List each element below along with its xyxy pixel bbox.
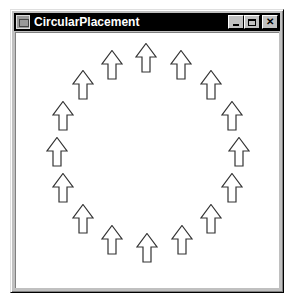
up-arrow-icon bbox=[101, 225, 123, 255]
up-arrow-icon bbox=[72, 204, 94, 234]
up-arrow-icon bbox=[200, 70, 222, 100]
up-arrow-icon bbox=[221, 173, 243, 203]
up-arrow-icon bbox=[135, 43, 157, 73]
up-arrow-icon bbox=[52, 173, 74, 203]
close-icon: ✕ bbox=[266, 17, 274, 27]
maximize-icon bbox=[248, 19, 256, 26]
app-icon[interactable] bbox=[16, 15, 30, 29]
maximize-button[interactable] bbox=[244, 15, 260, 29]
up-arrow-icon bbox=[221, 101, 243, 131]
up-arrow-icon bbox=[136, 233, 158, 263]
window-title: CircularPlacement bbox=[34, 15, 139, 29]
up-arrow-icon bbox=[170, 50, 192, 80]
window-controls: ✕ bbox=[228, 15, 278, 29]
minimize-button[interactable] bbox=[228, 15, 244, 29]
close-button[interactable]: ✕ bbox=[262, 15, 278, 29]
title-bar[interactable]: CircularPlacement ✕ bbox=[14, 13, 280, 31]
up-arrow-icon bbox=[228, 137, 250, 167]
up-arrow-icon bbox=[52, 101, 74, 131]
up-arrow-icon bbox=[200, 204, 222, 234]
up-arrow-icon bbox=[46, 137, 68, 167]
up-arrow-icon bbox=[72, 70, 94, 100]
up-arrow-icon bbox=[101, 50, 123, 80]
minimize-icon bbox=[233, 24, 239, 26]
up-arrow-icon bbox=[171, 225, 193, 255]
